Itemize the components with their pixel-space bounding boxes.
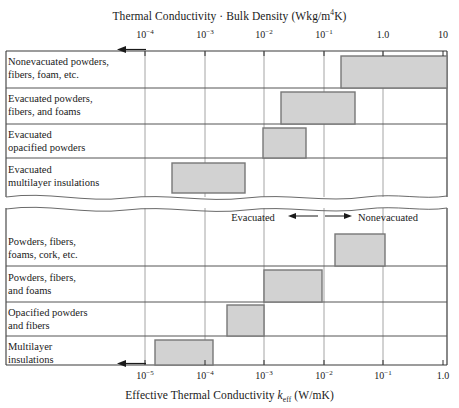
- annotation-nonevacuated: Nonevacuated: [358, 212, 418, 223]
- row-label-lower: Powders, fibers,foams, cork, etc.: [8, 236, 78, 261]
- bar-range: [172, 163, 245, 193]
- tick-label-bottom: 10−3: [255, 369, 272, 381]
- row-label-lower: Powders, fibers,and foams: [8, 272, 76, 297]
- annotation-evacuated: Evacuated: [231, 212, 275, 223]
- row-label-upper: Evacuatedmultilayer insulations: [8, 164, 99, 189]
- figure-root: Thermal Conductivity · Bulk Density (Wkg…: [0, 0, 459, 408]
- bar-range: [281, 92, 355, 124]
- tick-label-bottom: 10−2: [315, 369, 332, 381]
- tick-label-bottom: 1.0: [437, 369, 450, 381]
- bottom-axis-title-main: Effective Thermal Conductivity: [125, 389, 277, 401]
- bar-range: [263, 128, 306, 158]
- bars-lower: [155, 234, 385, 365]
- tick-label-top: 10−4: [136, 28, 153, 40]
- row-label-lower: Multilayerinsulations: [8, 341, 54, 366]
- row-label-upper: Nonevacuated powders,fibers, foam, etc.: [8, 56, 109, 81]
- tick-label-top: 10: [438, 28, 448, 40]
- row-label-upper: Evacuated powders,fibers, and foams: [8, 93, 93, 118]
- axis-break-wave: [6, 195, 447, 211]
- bar-range: [227, 305, 264, 336]
- bar-range: [341, 56, 447, 88]
- bottom-axis-title-tail: (W/mK): [291, 389, 334, 401]
- evacuated-arrow-icon: [288, 213, 318, 219]
- top-axis-title-main: Thermal Conductivity · Bulk Density (Wkg…: [112, 10, 330, 22]
- tick-label-top: 1.0: [377, 28, 390, 40]
- bottom-axis-title: Effective Thermal Conductivity keff (W/m…: [0, 389, 459, 404]
- tick-label-top: 10−1: [315, 28, 332, 40]
- row-label-lower: Opacified powdersand fibers: [8, 307, 88, 332]
- top-axis-title-tail: K): [334, 10, 346, 22]
- tick-label-bottom: 10−5: [136, 369, 153, 381]
- bar-range: [264, 270, 322, 302]
- tick-label-bottom: 10−4: [196, 369, 213, 381]
- top-axis-title: Thermal Conductivity · Bulk Density (Wkg…: [0, 8, 459, 22]
- nonevacuated-arrow-icon: [325, 213, 352, 219]
- bottom-axis-arrow-icon: [117, 360, 146, 367]
- tick-label-top: 10−2: [255, 28, 272, 40]
- row-label-upper: Evacuatedopacified powders: [8, 129, 85, 154]
- tick-label-bottom: 10−1: [374, 369, 391, 381]
- bar-range: [155, 340, 213, 365]
- top-axis-arrow-icon: [117, 46, 146, 53]
- tickmarks-top: [145, 51, 443, 56]
- bar-range: [335, 234, 385, 266]
- tick-label-top: 10−3: [196, 28, 213, 40]
